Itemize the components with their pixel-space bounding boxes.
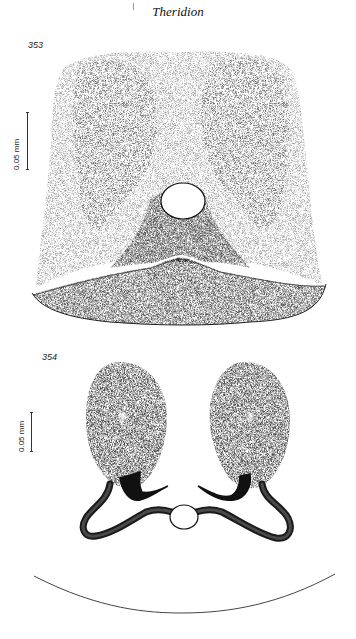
illustration-canvas <box>0 0 356 639</box>
copulatory-opening <box>161 183 205 219</box>
epigastric-furrow-arc <box>34 574 335 613</box>
figure-353-drawing <box>32 51 326 325</box>
left-spermatheca-highlight <box>106 398 138 442</box>
central-opening <box>170 505 198 529</box>
right-spermatheca-highlight <box>236 398 264 442</box>
right-fertilization-duct <box>198 474 250 500</box>
figure-354-drawing <box>83 362 290 538</box>
